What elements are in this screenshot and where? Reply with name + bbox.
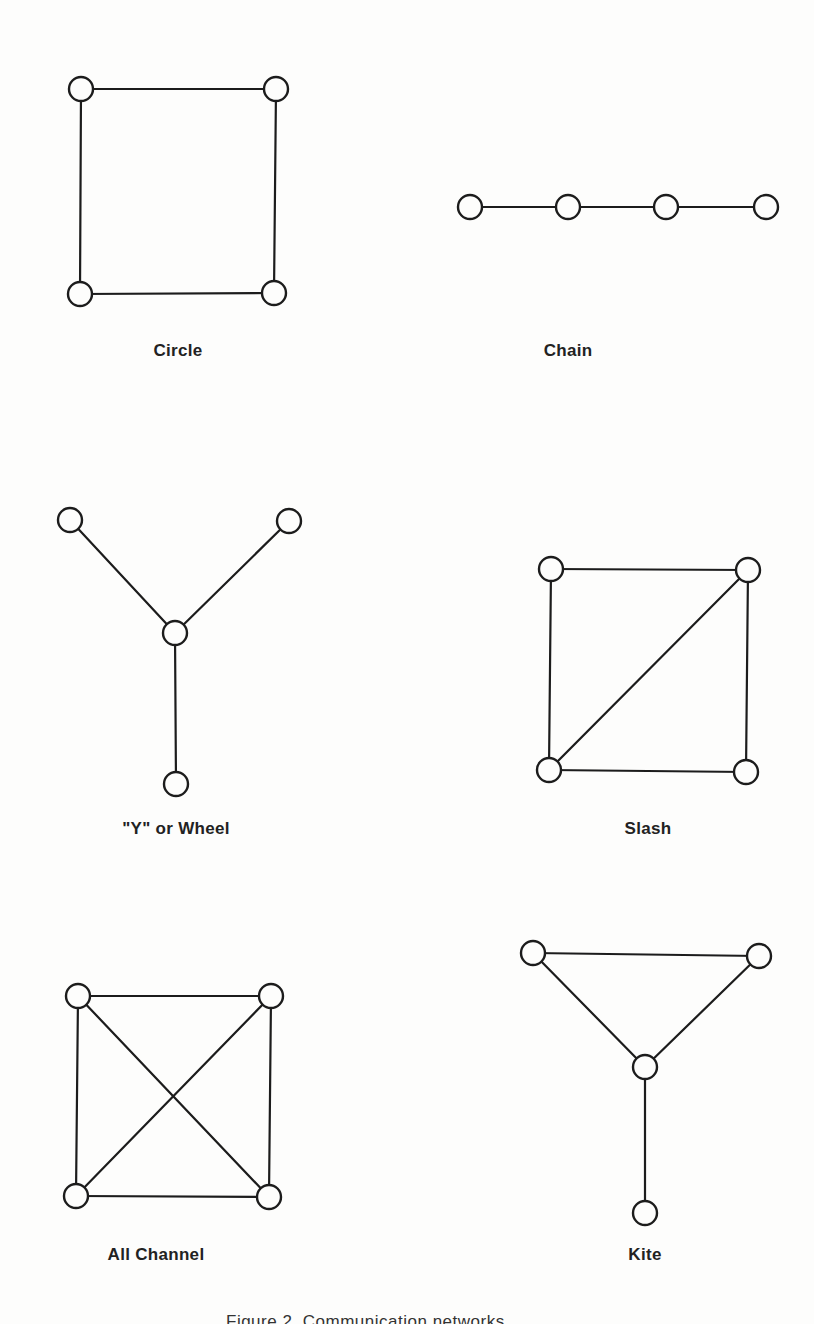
y-wheel-node-icon bbox=[163, 621, 187, 645]
slash-node-icon bbox=[736, 558, 760, 582]
circle-node-icon bbox=[264, 77, 288, 101]
circle-edge bbox=[274, 89, 276, 293]
kite-node-icon bbox=[747, 944, 771, 968]
chain-node-icon bbox=[754, 195, 778, 219]
slash-edge bbox=[746, 570, 748, 772]
label-slash: Slash bbox=[625, 819, 672, 839]
kite-edge bbox=[645, 956, 759, 1067]
slash-edge bbox=[549, 570, 748, 770]
chain-node-icon bbox=[556, 195, 580, 219]
circle-node-icon bbox=[262, 281, 286, 305]
chain-node-icon bbox=[654, 195, 678, 219]
all-channel-node-icon bbox=[66, 984, 90, 1008]
label-circle: Circle bbox=[153, 341, 202, 361]
all-channel-node-icon bbox=[64, 1184, 88, 1208]
kite-node-icon bbox=[521, 941, 545, 965]
slash-edge bbox=[551, 569, 748, 570]
kite-edge bbox=[533, 953, 645, 1067]
circle-edge bbox=[80, 293, 274, 294]
y-wheel-edge bbox=[175, 633, 176, 784]
y-wheel-edge bbox=[70, 520, 175, 633]
label-kite: Kite bbox=[628, 1245, 661, 1265]
kite-node-icon bbox=[633, 1201, 657, 1225]
circle-edge bbox=[80, 89, 81, 294]
slash-node-icon bbox=[537, 758, 561, 782]
label-all-channel: All Channel bbox=[108, 1245, 205, 1265]
y-wheel-node-icon bbox=[58, 508, 82, 532]
slash-node-icon bbox=[539, 557, 563, 581]
y-wheel-node-icon bbox=[277, 509, 301, 533]
figure-canvas: Circle Chain "Y" or Wheel Slash All Chan… bbox=[0, 0, 814, 1324]
label-y-wheel: "Y" or Wheel bbox=[122, 819, 230, 839]
network-diagrams bbox=[0, 0, 814, 1324]
all-channel-edge bbox=[76, 996, 78, 1196]
kite-edge bbox=[533, 953, 759, 956]
all-channel-node-icon bbox=[259, 984, 283, 1008]
all-channel-edge bbox=[76, 1196, 269, 1197]
all-channel-edge bbox=[269, 996, 271, 1197]
slash-node-icon bbox=[734, 760, 758, 784]
slash-edge bbox=[549, 770, 746, 772]
slash-edge bbox=[549, 569, 551, 770]
kite-node-icon bbox=[633, 1055, 657, 1079]
chain-node-icon bbox=[458, 195, 482, 219]
y-wheel-edge bbox=[175, 521, 289, 633]
label-chain: Chain bbox=[544, 341, 593, 361]
figure-caption: Figure 2. Communication networks bbox=[226, 1312, 505, 1324]
edges-layer bbox=[70, 89, 766, 1213]
nodes-layer bbox=[58, 77, 778, 1225]
all-channel-node-icon bbox=[257, 1185, 281, 1209]
circle-node-icon bbox=[68, 282, 92, 306]
circle-node-icon bbox=[69, 77, 93, 101]
y-wheel-node-icon bbox=[164, 772, 188, 796]
